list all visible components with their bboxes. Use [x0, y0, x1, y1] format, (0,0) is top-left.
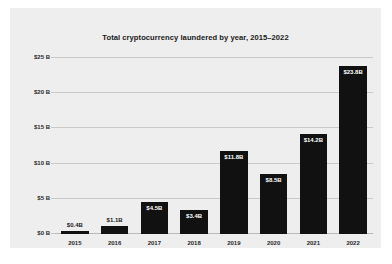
plot-area: $0 B$5 B$10 B$15 B$20 B$25 B $0.4B2015$1…: [55, 58, 373, 234]
chart-panel: Total cryptocurrency laundered by year, …: [10, 8, 381, 248]
bar[interactable]: $3.4B: [180, 210, 207, 234]
y-axis-tick-label: $25 B: [34, 54, 50, 60]
bar-value-label: $14.2B: [304, 137, 323, 143]
x-axis-tick-label: 2019: [227, 240, 240, 246]
bar-value-label: $1.1B: [107, 217, 123, 223]
bar-group[interactable]: $23.8B2022: [335, 58, 372, 234]
bar-value-label: $0.4B: [67, 222, 83, 228]
x-axis-tick-label: 2018: [187, 240, 200, 246]
bar[interactable]: $23.8B: [339, 66, 366, 234]
bar[interactable]: $1.1B: [101, 226, 128, 234]
x-axis-tick-label: 2015: [68, 240, 81, 246]
bar-value-label: $8.5B: [266, 177, 282, 183]
y-axis-tick-label: $15 B: [34, 124, 50, 130]
bar-value-label: $3.4B: [186, 213, 202, 219]
y-axis-tick-label: $10 B: [34, 160, 50, 166]
bar-group[interactable]: $11.8B2019: [215, 58, 252, 234]
x-axis-tick-label: 2020: [267, 240, 280, 246]
x-axis-tick-label: 2016: [108, 240, 121, 246]
bar-group[interactable]: $1.1B2016: [96, 58, 133, 234]
bar[interactable]: $11.8B: [220, 151, 247, 234]
bar-group[interactable]: $8.5B2020: [255, 58, 292, 234]
x-axis-tick-label: 2021: [307, 240, 320, 246]
bar-group[interactable]: $3.4B2018: [176, 58, 213, 234]
bar-series: $0.4B2015$1.1B2016$4.5B2017$3.4B2018$11.…: [55, 58, 373, 234]
bar-group[interactable]: $14.2B2021: [295, 58, 332, 234]
chart-title: Total cryptocurrency laundered by year, …: [10, 33, 381, 42]
y-axis-tick-label: $20 B: [34, 89, 50, 95]
x-axis-tick-label: 2022: [346, 240, 359, 246]
bar[interactable]: $4.5B: [141, 202, 168, 234]
bar[interactable]: $14.2B: [300, 134, 327, 234]
bar-group[interactable]: $4.5B2017: [136, 58, 173, 234]
bar-group[interactable]: $0.4B2015: [56, 58, 93, 234]
y-axis-tick-label: $0 B: [37, 230, 50, 236]
bar[interactable]: $0.4B: [61, 231, 88, 234]
x-axis-tick-label: 2017: [148, 240, 161, 246]
bar-value-label: $11.8B: [224, 154, 243, 160]
bar-value-label: $23.8B: [343, 69, 362, 75]
bar-value-label: $4.5B: [146, 205, 162, 211]
y-axis-tick-label: $5 B: [37, 195, 50, 201]
bar[interactable]: $8.5B: [260, 174, 287, 234]
